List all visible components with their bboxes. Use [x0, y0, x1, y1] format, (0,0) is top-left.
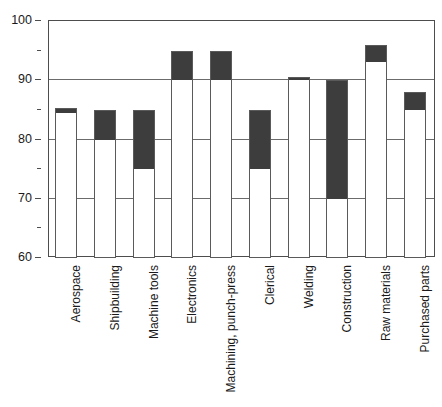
y-tick-label-90: 90 — [18, 73, 32, 86]
y-tick-major-90 — [35, 79, 41, 80]
plot-area — [48, 20, 435, 257]
bar-clerical[interactable] — [249, 110, 271, 258]
bar-aerospace[interactable] — [55, 108, 77, 258]
bar-dark-segment — [211, 52, 231, 81]
y-tick-minor-65 — [37, 227, 41, 228]
bar-shipbuilding[interactable] — [94, 110, 116, 258]
y-axis: 60708090100 — [0, 0, 48, 407]
bar-dark-segment — [95, 111, 115, 140]
x-tick-label-6: Welding — [303, 265, 315, 308]
bar-dark-segment — [327, 81, 347, 199]
bar-dark-segment — [250, 111, 270, 169]
bar-dark-segment — [134, 111, 154, 169]
y-tick-label-70: 70 — [18, 192, 32, 205]
x-tick-label-4: Machining, punch-press — [225, 265, 237, 392]
x-tick-label-0: Aerospace — [70, 265, 82, 322]
y-tick-major-60 — [35, 257, 41, 258]
x-tick-label-1: Shipbuilding — [109, 265, 121, 330]
bar-electronics[interactable] — [171, 51, 193, 258]
y-tick-minor-95 — [37, 50, 41, 51]
bar-dark-segment — [405, 93, 425, 110]
bar-machine-tools[interactable] — [133, 110, 155, 258]
bar-dark-segment — [56, 109, 76, 113]
y-tick-minor-75 — [37, 168, 41, 169]
x-tick-label-8: Raw materials — [380, 265, 392, 341]
y-tick-minor-85 — [37, 109, 41, 110]
bar-raw-materials[interactable] — [365, 45, 387, 258]
bar-dark-segment — [289, 78, 309, 80]
x-tick-label-9: Purchased parts — [419, 265, 431, 352]
y-tick-major-70 — [35, 198, 41, 199]
y-tick-label-100: 100 — [11, 14, 32, 27]
bar-construction[interactable] — [326, 80, 348, 258]
x-axis-labels: AerospaceShipbuildingMachine toolsElectr… — [48, 258, 435, 407]
x-tick-label-2: Machine tools — [148, 265, 160, 339]
bar-machining-punch-press[interactable] — [210, 51, 232, 258]
y-tick-major-100 — [35, 20, 41, 21]
y-tick-major-80 — [35, 139, 41, 140]
chart-container: 60708090100 AerospaceShipbuildingMachine… — [0, 0, 442, 407]
x-tick-label-7: Construction — [341, 265, 353, 332]
y-tick-label-80: 80 — [18, 132, 32, 145]
x-tick-label-3: Electronics — [186, 265, 198, 324]
x-tick-label-5: Clerical — [264, 265, 276, 305]
bar-dark-segment — [366, 46, 386, 63]
bar-purchased-parts[interactable] — [404, 92, 426, 258]
bar-dark-segment — [172, 52, 192, 81]
y-tick-label-60: 60 — [18, 251, 32, 264]
bar-welding[interactable] — [288, 77, 310, 258]
